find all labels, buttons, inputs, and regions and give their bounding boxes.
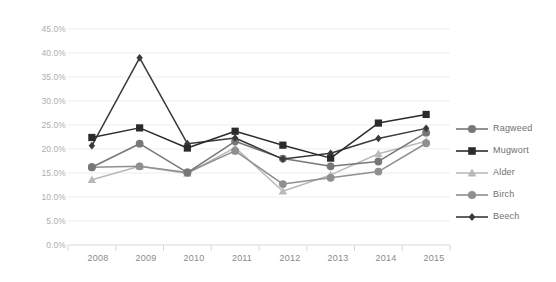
legend-label: Beech — [493, 211, 520, 221]
data-point-marker — [232, 128, 239, 135]
x-tick-label: 2014 — [364, 253, 408, 264]
x-tick-label: 2013 — [316, 253, 360, 264]
data-point-marker — [422, 139, 430, 147]
legend-marker-circle-icon — [455, 184, 489, 206]
legend-marker-diamond-icon — [455, 206, 489, 228]
data-point-marker — [469, 213, 476, 221]
legend-label: Alder — [493, 167, 515, 177]
legend-marker-circle-icon — [455, 118, 489, 140]
data-point-marker — [136, 124, 143, 131]
legend-marker-square-icon — [455, 140, 489, 162]
data-point-marker — [423, 111, 430, 118]
data-point-marker — [183, 169, 191, 177]
data-point-marker — [374, 158, 382, 166]
data-point-marker — [327, 174, 335, 182]
data-point-marker — [468, 125, 476, 133]
data-point-marker — [88, 134, 95, 141]
chart-legend: Ragweed Mugwort Alder Birch Beech — [455, 118, 555, 228]
legend-label: Birch — [493, 189, 515, 199]
x-tick-label: 2008 — [76, 253, 120, 264]
legend-label: Mugwort — [493, 145, 529, 155]
data-point-marker — [184, 144, 191, 151]
x-tick-label: 2015 — [412, 253, 456, 264]
legend-item-beech[interactable]: Beech — [455, 206, 555, 228]
data-point-marker — [231, 147, 239, 155]
data-point-marker — [374, 168, 382, 176]
legend-item-ragweed[interactable]: Ragweed — [455, 118, 555, 140]
data-point-marker — [88, 163, 96, 171]
x-tick-label: 2010 — [172, 253, 216, 264]
data-point-marker — [375, 119, 382, 126]
data-point-marker — [468, 191, 476, 199]
data-point-marker — [136, 140, 144, 148]
pollen-trend-line-chart: 45.0% 40.0% 35.0% 30.0% 25.0% 20.0% 15.0… — [0, 0, 556, 282]
data-point-marker — [279, 180, 287, 188]
data-point-marker — [279, 142, 286, 149]
x-tick-label: 2011 — [220, 253, 264, 264]
data-point-marker — [327, 155, 334, 162]
x-tick-label: 2012 — [268, 253, 312, 264]
data-point-marker — [327, 162, 335, 170]
data-point-marker — [375, 135, 381, 143]
legend-marker-triangle-icon — [455, 162, 489, 184]
legend-item-mugwort[interactable]: Mugwort — [455, 140, 555, 162]
x-tick-label: 2009 — [124, 253, 168, 264]
data-point-marker — [136, 162, 144, 170]
data-point-marker — [468, 147, 476, 155]
legend-item-birch[interactable]: Birch — [455, 184, 555, 206]
legend-item-alder[interactable]: Alder — [455, 162, 555, 184]
legend-label: Ragweed — [493, 123, 532, 133]
